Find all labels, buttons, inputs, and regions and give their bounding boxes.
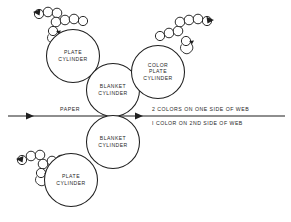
upper-left-plate-cylinder-label: CYLINDER bbox=[58, 56, 87, 62]
color-plate-cylinder-label: CYLINDER bbox=[143, 75, 172, 81]
web-path-group bbox=[8, 113, 285, 120]
upper-right-roller-train bbox=[155, 14, 211, 45]
upper-blanket-cylinder-label: BLANKET bbox=[100, 83, 126, 89]
lower-blanket-cylinder-label: BLANKET bbox=[100, 135, 126, 141]
ink-roller bbox=[35, 150, 45, 160]
upper-left-plate-cylinder-label: PLATE bbox=[64, 49, 82, 55]
lower-left-plate-cylinder-label: PLATE bbox=[62, 173, 80, 179]
ink-roller bbox=[43, 7, 53, 17]
ink-roller bbox=[155, 31, 164, 40]
ink-roller bbox=[38, 159, 48, 169]
lower-left-plate-cylinder-label: CYLINDER bbox=[56, 180, 85, 186]
lower-blanket-cylinder-label: CYLINDER bbox=[98, 142, 127, 148]
ink-roller bbox=[51, 17, 61, 27]
upper-blanket-cylinder-label: CYLINDER bbox=[98, 90, 127, 96]
ink-roller bbox=[78, 16, 87, 25]
web-direction-arrow-right bbox=[135, 113, 143, 120]
press-diagram-canvas: PLATECYLINDERBLANKETCYLINDERCOLORPLATECY… bbox=[0, 0, 291, 222]
paper-label: PAPER bbox=[60, 106, 80, 112]
ink-roller bbox=[26, 151, 36, 161]
ink-roller bbox=[164, 28, 174, 38]
color-plate-cylinder-label: PLATE bbox=[149, 68, 167, 74]
ink-roller bbox=[193, 14, 203, 24]
ink-roller bbox=[69, 14, 79, 24]
ink-roller bbox=[173, 26, 183, 36]
ink-roller bbox=[175, 17, 185, 27]
ink-roller bbox=[52, 8, 62, 18]
web-direction-arrow-left bbox=[26, 113, 34, 120]
note-one-color-label: I COLOR ON 2ND SIDE OF WEB bbox=[152, 120, 243, 126]
ink-roller bbox=[60, 15, 70, 25]
ink-roller bbox=[184, 15, 194, 25]
press-diagram: PLATECYLINDERBLANKETCYLINDERCOLORPLATECY… bbox=[0, 0, 291, 222]
color-plate-cylinder-label: COLOR bbox=[148, 62, 168, 68]
note-two-colors-label: 2 COLORS ON ONE SIDE OF WEB bbox=[152, 106, 249, 112]
